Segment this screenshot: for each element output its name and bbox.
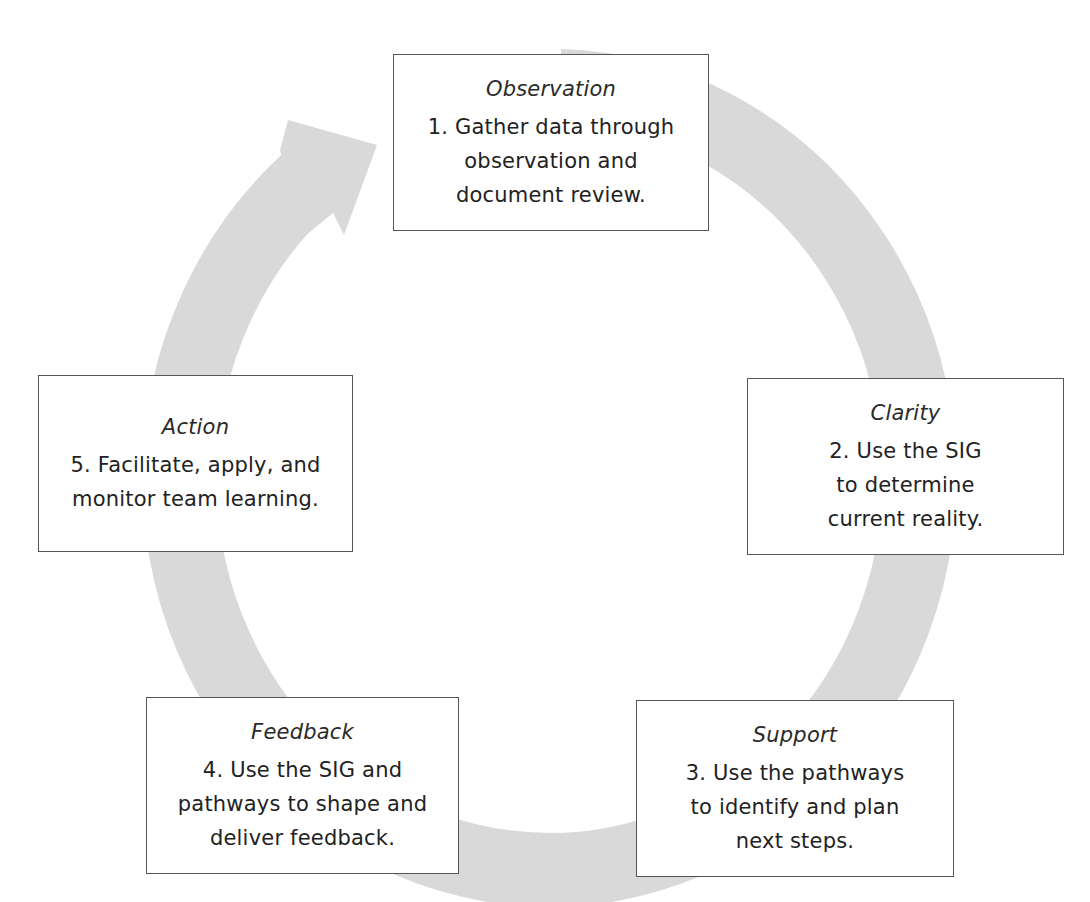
step-line: pathways to shape and: [178, 787, 427, 821]
step-line: 3. Use the pathways: [686, 756, 905, 790]
step-description: 3. Use the pathways to identify and plan…: [686, 756, 905, 858]
step-description: 5. Facilitate, apply, and monitor team l…: [70, 448, 320, 516]
step-line: monitor team learning.: [70, 482, 320, 516]
step-description: 4. Use the SIG and pathways to shape and…: [178, 753, 427, 855]
step-description: 1. Gather data through observation and d…: [428, 110, 675, 212]
step-title: Clarity: [871, 398, 941, 428]
step-title: Support: [753, 720, 837, 750]
step-description: 2. Use the SIG to determine current real…: [828, 434, 984, 536]
step-clarity: Clarity 2. Use the SIG to determine curr…: [747, 378, 1064, 555]
step-action: Action 5. Facilitate, apply, and monitor…: [38, 375, 353, 552]
step-line: to determine: [828, 468, 984, 502]
step-line: 1. Gather data through: [428, 110, 675, 144]
step-line: document review.: [428, 178, 675, 212]
step-line: next steps.: [686, 824, 905, 858]
step-title: Feedback: [251, 717, 354, 747]
step-line: 2. Use the SIG: [828, 434, 984, 468]
step-line: to identify and plan: [686, 790, 905, 824]
step-observation: Observation 1. Gather data through obser…: [393, 54, 709, 231]
step-line: observation and: [428, 144, 675, 178]
step-title: Observation: [486, 74, 616, 104]
step-line: 5. Facilitate, apply, and: [70, 448, 320, 482]
step-line: 4. Use the SIG and: [178, 753, 427, 787]
step-support: Support 3. Use the pathways to identify …: [636, 700, 954, 877]
step-feedback: Feedback 4. Use the SIG and pathways to …: [146, 697, 459, 874]
step-line: deliver feedback.: [178, 821, 427, 855]
step-title: Action: [162, 412, 229, 442]
step-line: current reality.: [828, 502, 984, 536]
